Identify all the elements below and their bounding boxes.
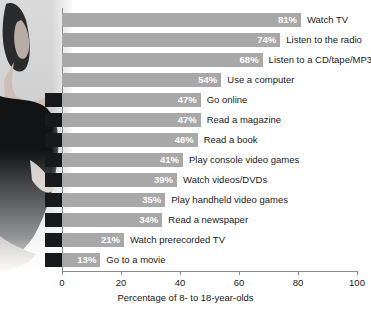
bar-category-label: Use a computer [227, 73, 294, 87]
bar-value-label: 35% [62, 193, 165, 207]
x-axis-title: Percentage of 8- to 18-year-olds [0, 292, 371, 303]
bar-category-label: Read a book [204, 133, 258, 147]
bar-value-label: 39% [62, 173, 177, 187]
x-tick-mark [239, 271, 240, 275]
bar-shadow-stub [45, 133, 62, 147]
bar-category-label: Listen to a CD/tape/MP3 [269, 53, 371, 67]
bar-shadow-stub [45, 93, 62, 107]
bar-category-label: Watch TV [307, 13, 348, 27]
bar-shadow-stub [45, 213, 62, 227]
bar-category-label: Listen to the radio [286, 33, 362, 47]
x-tick-mark [180, 271, 181, 275]
bar-value-label: 74% [62, 33, 280, 47]
bar-value-label: 21% [62, 233, 124, 247]
x-tick-label: 100 [342, 277, 371, 288]
x-tick-label: 20 [106, 277, 136, 288]
bar-value-label: 81% [62, 13, 301, 27]
bar-value-label: 41% [62, 153, 183, 167]
x-tick-mark [357, 271, 358, 275]
bar-category-label: Watch prerecorded TV [130, 233, 225, 247]
bar-category-label: Play handheld video games [171, 193, 288, 207]
bar-category-label: Watch videos/DVDs [183, 173, 267, 187]
bar-shadow-stub [45, 233, 62, 247]
x-tick-mark [62, 271, 63, 275]
bar-shadow-stub [45, 113, 62, 127]
bar-category-label: Go online [207, 93, 248, 107]
bar-value-label: 13% [62, 253, 100, 267]
bar-shadow-stub [45, 253, 62, 267]
plot-area: 81%Watch TV74%Listen to the radio68%List… [0, 0, 371, 311]
bar-value-label: 47% [62, 93, 201, 107]
x-axis-line [62, 271, 358, 272]
bar-value-label: 46% [62, 133, 198, 147]
x-tick-label: 0 [47, 277, 77, 288]
bar-category-label: Play console video games [189, 153, 299, 167]
bar-value-label: 68% [62, 53, 263, 67]
bar-shadow-stub [45, 193, 62, 207]
x-tick-label: 40 [165, 277, 195, 288]
bar-category-label: Go to a movie [106, 253, 165, 267]
bar-category-label: Read a newspaper [168, 213, 248, 227]
x-tick-mark [298, 271, 299, 275]
bar-chart: 81%Watch TV74%Listen to the radio68%List… [0, 0, 371, 311]
bar-value-label: 47% [62, 113, 201, 127]
bar-shadow-stub [45, 153, 62, 167]
x-tick-label: 80 [283, 277, 313, 288]
x-tick-mark [121, 271, 122, 275]
bar-category-label: Read a magazine [207, 113, 281, 127]
x-tick-label: 60 [224, 277, 254, 288]
bar-shadow-stub [45, 173, 62, 187]
bar-value-label: 34% [62, 213, 162, 227]
bar-value-label: 54% [62, 73, 221, 87]
